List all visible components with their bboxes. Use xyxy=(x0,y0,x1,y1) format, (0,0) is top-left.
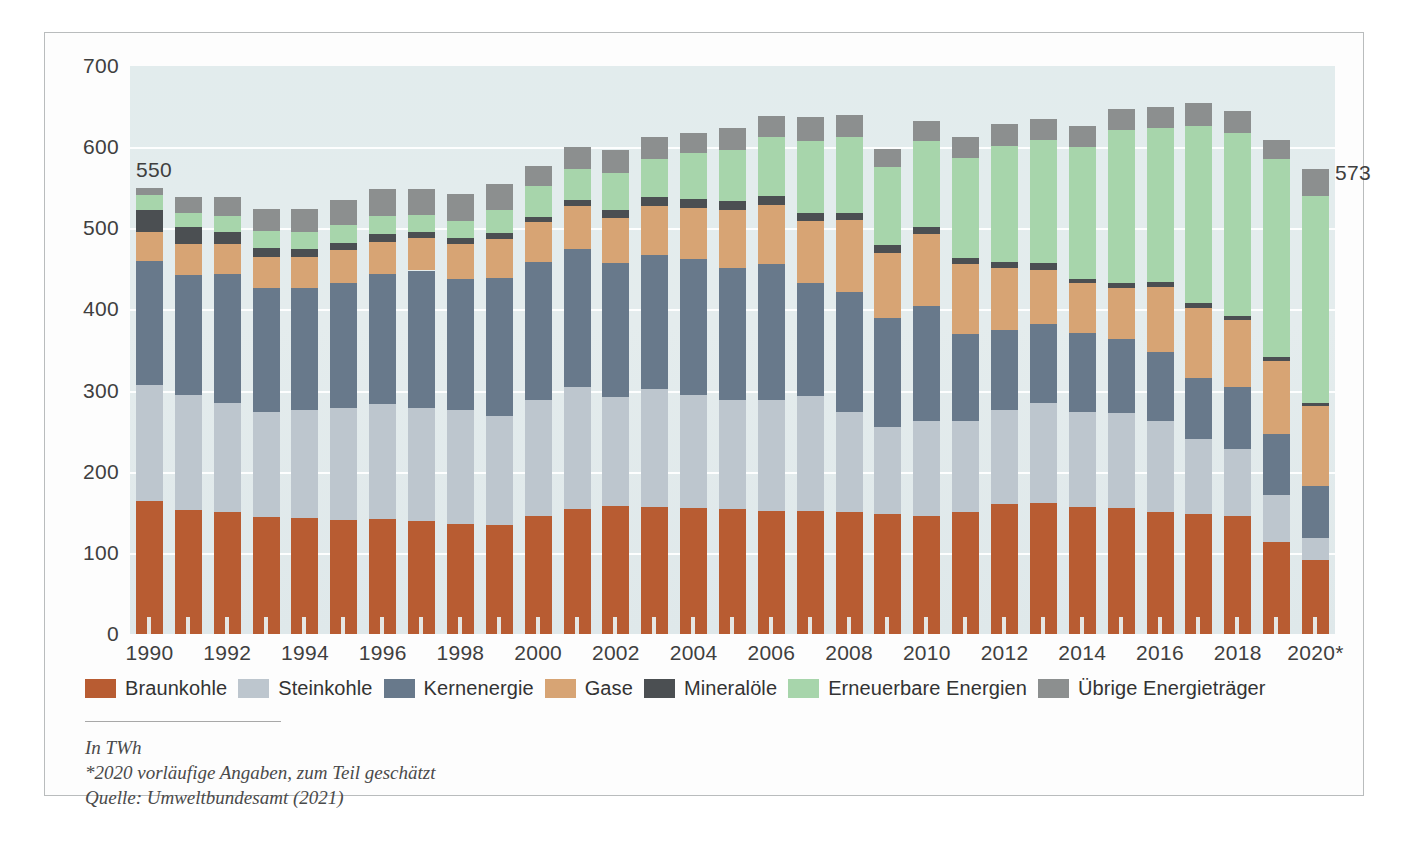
bar-segment[interactable] xyxy=(874,245,901,253)
bar-segment[interactable] xyxy=(874,149,901,168)
bar-segment[interactable] xyxy=(602,506,629,634)
bar-segment[interactable] xyxy=(253,412,280,517)
bar-segment[interactable] xyxy=(525,222,552,262)
bar-segment[interactable] xyxy=(991,504,1018,634)
bar-segment[interactable] xyxy=(1263,495,1290,541)
legend-item[interactable]: Kernenergie xyxy=(384,677,534,700)
bar-segment[interactable] xyxy=(836,512,863,634)
bar-segment[interactable] xyxy=(1069,279,1096,284)
stacked-bar[interactable] xyxy=(1147,107,1174,634)
bar-segment[interactable] xyxy=(1224,133,1251,316)
bar-segment[interactable] xyxy=(1147,421,1174,512)
bar-segment[interactable] xyxy=(1108,508,1135,634)
bar-segment[interactable] xyxy=(1263,361,1290,435)
bar-segment[interactable] xyxy=(330,243,357,250)
bar-segment[interactable] xyxy=(1147,107,1174,129)
stacked-bar[interactable] xyxy=(1069,126,1096,634)
legend-item[interactable]: Gase xyxy=(545,677,633,700)
bar-segment[interactable] xyxy=(680,395,707,509)
bar-segment[interactable] xyxy=(797,511,824,634)
stacked-bar[interactable] xyxy=(758,116,785,634)
bar-segment[interactable] xyxy=(758,205,785,264)
bar-segment[interactable] xyxy=(952,137,979,158)
bar-segment[interactable] xyxy=(330,225,357,243)
bar-segment[interactable] xyxy=(719,128,746,149)
bar-segment[interactable] xyxy=(874,514,901,634)
bar-segment[interactable] xyxy=(408,189,435,215)
bar-segment[interactable] xyxy=(369,189,396,216)
bar-segment[interactable] xyxy=(1263,357,1290,361)
bar-segment[interactable] xyxy=(525,186,552,217)
bar-segment[interactable] xyxy=(1030,324,1057,403)
bar-segment[interactable] xyxy=(408,238,435,270)
bar-segment[interactable] xyxy=(369,274,396,405)
bar-segment[interactable] xyxy=(447,410,474,524)
bar-segment[interactable] xyxy=(136,195,163,210)
bar-segment[interactable] xyxy=(175,395,202,510)
stacked-bar[interactable] xyxy=(369,189,396,634)
bar-segment[interactable] xyxy=(952,334,979,422)
bar-segment[interactable] xyxy=(991,124,1018,145)
bar-segment[interactable] xyxy=(447,194,474,221)
bar-segment[interactable] xyxy=(214,512,241,634)
bar-segment[interactable] xyxy=(214,244,241,274)
bar-segment[interactable] xyxy=(369,216,396,234)
bar-segment[interactable] xyxy=(913,141,940,226)
bar-segment[interactable] xyxy=(1069,126,1096,147)
bar-segment[interactable] xyxy=(564,206,591,249)
bar-segment[interactable] xyxy=(175,510,202,634)
bar-segment[interactable] xyxy=(175,275,202,395)
bar-segment[interactable] xyxy=(1185,103,1212,126)
bar-segment[interactable] xyxy=(525,400,552,516)
bar-segment[interactable] xyxy=(952,158,979,259)
bar-segment[interactable] xyxy=(564,387,591,509)
bar-segment[interactable] xyxy=(1224,111,1251,132)
legend-item[interactable]: Steinkohle xyxy=(238,677,372,700)
bar-segment[interactable] xyxy=(1108,283,1135,288)
bar-segment[interactable] xyxy=(680,199,707,208)
bar-segment[interactable] xyxy=(291,232,318,248)
legend-item[interactable]: Erneuerbare Energien xyxy=(788,677,1027,700)
bar-segment[interactable] xyxy=(1147,128,1174,281)
bar-segment[interactable] xyxy=(214,197,241,216)
bar-segment[interactable] xyxy=(1069,412,1096,508)
bar-segment[interactable] xyxy=(214,403,241,513)
stacked-bar[interactable] xyxy=(913,121,940,634)
bar-segment[interactable] xyxy=(719,268,746,400)
bar-segment[interactable] xyxy=(1263,434,1290,495)
stacked-bar[interactable] xyxy=(214,197,241,634)
bar-segment[interactable] xyxy=(719,509,746,634)
bar-segment[interactable] xyxy=(525,166,552,186)
bar-segment[interactable] xyxy=(836,412,863,513)
bar-segment[interactable] xyxy=(253,209,280,231)
bar-segment[interactable] xyxy=(291,410,318,518)
stacked-bar[interactable] xyxy=(1030,119,1057,634)
bar-segment[interactable] xyxy=(602,263,629,397)
bar-segment[interactable] xyxy=(602,210,629,217)
bar-segment[interactable] xyxy=(330,250,357,283)
bar-segment[interactable] xyxy=(486,233,513,239)
stacked-bar[interactable] xyxy=(991,124,1018,634)
bar-segment[interactable] xyxy=(874,318,901,428)
bar-segment[interactable] xyxy=(1185,514,1212,634)
bar-segment[interactable] xyxy=(1302,538,1329,560)
stacked-bar[interactable] xyxy=(136,188,163,634)
bar-segment[interactable] xyxy=(1147,287,1174,353)
bar-segment[interactable] xyxy=(564,169,591,200)
bar-segment[interactable] xyxy=(680,153,707,199)
bar-segment[interactable] xyxy=(952,258,979,264)
bar-segment[interactable] xyxy=(797,117,824,141)
bar-segment[interactable] xyxy=(175,197,202,213)
bar-segment[interactable] xyxy=(486,416,513,526)
bar-segment[interactable] xyxy=(797,283,824,397)
bar-segment[interactable] xyxy=(641,255,668,389)
bar-segment[interactable] xyxy=(913,227,940,234)
bar-segment[interactable] xyxy=(1030,503,1057,634)
bar-segment[interactable] xyxy=(1302,486,1329,538)
stacked-bar[interactable] xyxy=(952,137,979,634)
bar-segment[interactable] xyxy=(136,501,163,634)
stacked-bar[interactable] xyxy=(486,184,513,634)
bar-segment[interactable] xyxy=(1302,196,1329,403)
stacked-bar[interactable] xyxy=(408,189,435,634)
bar-segment[interactable] xyxy=(291,288,318,411)
